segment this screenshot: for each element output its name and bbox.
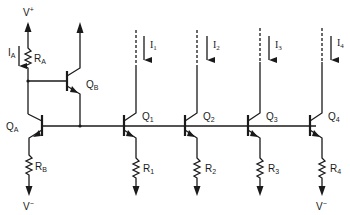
down-arrow-icon [319, 186, 326, 196]
v-minus-label-left: V− [23, 200, 34, 212]
transistor-q2-label: Q2 [203, 111, 215, 123]
output-stage-3: I3 Q3 R3 [248, 28, 282, 196]
resistor-r1-label: R1 [143, 163, 154, 175]
output-stage-4: I4 Q4 R4 V− [310, 28, 344, 212]
output-stage-1: I1 Q1 R1 [124, 30, 157, 196]
down-arrow-icon [133, 186, 140, 196]
resistor-rb-label: RB [35, 161, 47, 173]
current-ia-label: IA [8, 47, 16, 59]
resistor-ra-label: RA [34, 53, 46, 65]
resistor-r2-label: R2 [205, 163, 216, 175]
transistor-q4 [310, 110, 322, 155]
resistor-ra [25, 45, 31, 81]
resistor-rb [26, 145, 32, 190]
transistor-q3-label: Q3 [266, 111, 278, 123]
transistor-q1 [124, 110, 136, 155]
current-i1-label: I1 [150, 39, 157, 52]
resistor-r4 [319, 155, 325, 188]
up-arrow-icon [25, 22, 32, 32]
resistor-r3-label: R3 [268, 163, 279, 175]
v-minus-label-right: V− [316, 200, 327, 212]
down-arrow-icon [26, 186, 33, 196]
transistor-qa-label: QA [6, 121, 19, 133]
reference-branch: V+ RA IA QB QA RB [6, 6, 99, 212]
up-arrow-icon [77, 22, 84, 33]
resistor-r2 [194, 155, 200, 188]
transistor-q4-label: Q4 [328, 111, 340, 123]
transistor-q3 [248, 110, 260, 155]
transistor-qb [65, 30, 80, 100]
output-stage-2: I2 Q2 R2 [185, 30, 220, 196]
transistor-qa [28, 114, 42, 145]
v-plus-label: V+ [23, 6, 34, 18]
transistor-qb-label: QB [86, 79, 99, 91]
down-arrow-icon [257, 186, 264, 196]
down-arrow-icon [194, 186, 201, 196]
transistor-q2 [185, 110, 197, 155]
resistor-r3 [257, 155, 263, 188]
resistor-r1 [133, 155, 139, 188]
current-i2-label: I2 [213, 39, 220, 52]
junction-dot [78, 124, 81, 127]
current-i3-label: I3 [275, 39, 282, 52]
current-i4-label: I4 [337, 37, 344, 50]
current-mirror-schematic: V+ RA IA QB QA RB [0, 0, 350, 215]
resistor-r4-label: R4 [330, 163, 341, 175]
transistor-q1-label: Q1 [142, 111, 154, 123]
